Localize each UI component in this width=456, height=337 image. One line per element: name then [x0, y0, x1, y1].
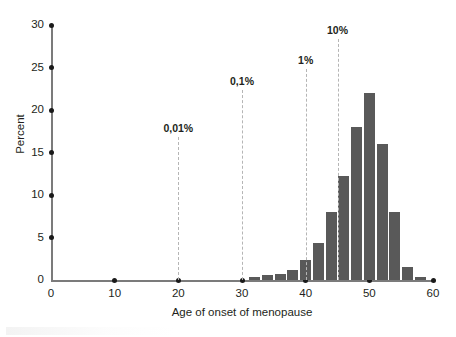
y-tick-label: 0 [18, 274, 44, 286]
histogram-bar [326, 212, 337, 280]
histogram-bar [249, 277, 260, 280]
y-tick-label: 30 [18, 19, 44, 31]
x-tick-label: 40 [291, 288, 321, 300]
histogram-bar [389, 212, 400, 280]
percentile-guide-line [242, 90, 243, 280]
percentile-guide-label: 0,01% [163, 123, 193, 134]
histogram-bar [338, 176, 349, 280]
percentile-guide-line [306, 69, 307, 280]
percentile-guide-label: 10% [327, 25, 348, 36]
histogram-bar [275, 274, 286, 280]
histogram-bar [415, 277, 426, 280]
x-axis-title: Age of onset of menopause [51, 306, 433, 318]
percentile-guide-line [178, 137, 179, 280]
y-tick-label: 25 [18, 62, 44, 74]
x-tick-label: 20 [163, 288, 193, 300]
histogram-bar [364, 93, 375, 280]
y-tick-label: 15 [18, 147, 44, 159]
percentile-guide-label: 0,1% [230, 76, 254, 87]
histogram-bar [313, 243, 324, 280]
y-tick-label: 5 [18, 232, 44, 244]
y-tick-label: 10 [18, 189, 44, 201]
scan-artifact [6, 327, 174, 335]
x-tick-label: 50 [354, 288, 384, 300]
x-tick-label: 60 [418, 288, 448, 300]
histogram-bar [287, 270, 298, 280]
y-tick-label: 20 [18, 104, 44, 116]
x-tick-label: 30 [227, 288, 257, 300]
x-tick-label: 0 [36, 288, 66, 300]
chart-figure: Percent 051015202530 Age of onset of men… [0, 0, 456, 337]
x-tick-label: 10 [100, 288, 130, 300]
histogram-bar [377, 144, 388, 280]
histogram-bar [402, 267, 413, 280]
percentile-guide-label: 1% [298, 55, 313, 66]
percentile-guide-line [338, 39, 339, 280]
histogram-bar [351, 127, 362, 280]
histogram-bar [262, 275, 273, 280]
